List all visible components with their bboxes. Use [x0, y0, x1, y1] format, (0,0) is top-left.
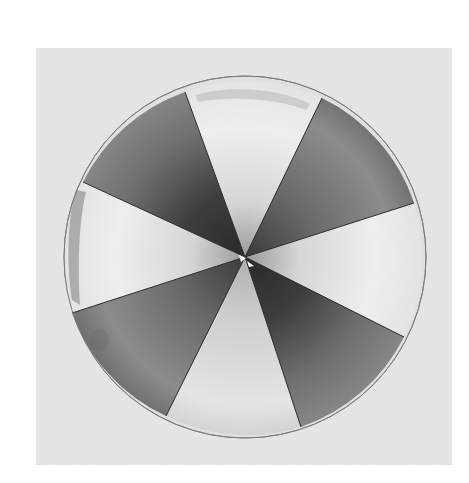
photo	[0, 0, 469, 483]
spot-bottom-left	[89, 329, 109, 351]
